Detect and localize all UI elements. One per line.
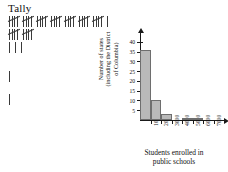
x-tick (151, 120, 152, 124)
tally-group-of-five (9, 16, 20, 27)
bar (182, 118, 193, 120)
tally-mark (15, 42, 18, 53)
y-tick: 40 (137, 42, 143, 43)
x-tick-label: 4000 (184, 115, 190, 126)
x-axis-title-line: public schools (120, 157, 228, 166)
x-tick (172, 120, 173, 124)
histogram-chart: Number of states (including the District… (96, 30, 228, 172)
y-axis-title-line: Number of states (97, 19, 104, 99)
x-tick-label: 3000 (174, 115, 180, 126)
y-tick-label: 30 (129, 59, 135, 65)
tally-group-of-five (9, 29, 20, 40)
x-axis-title: Students enrolled in public schools (120, 148, 228, 166)
bar (151, 100, 162, 120)
y-tick-label: 25 (129, 69, 135, 75)
x-tick (203, 120, 204, 124)
tally-group-of-five (65, 16, 76, 27)
tally-group-of-five (23, 16, 34, 27)
tally-group-of-five (23, 29, 34, 40)
x-tick-label: 6000 (205, 115, 211, 126)
bar (140, 50, 151, 120)
y-tick-label: 5 (132, 108, 135, 114)
tally-mark (9, 42, 12, 53)
y-axis-title-line: (including the District (104, 19, 111, 99)
tally-mark (9, 94, 12, 105)
page-root: Tally (0, 0, 228, 172)
tally-mark (21, 42, 24, 53)
bar (161, 114, 172, 120)
y-axis-title: Number of states (including the District… (97, 19, 119, 99)
tally-group-of-five (37, 16, 48, 27)
y-tick-label: 15 (129, 88, 135, 94)
y-tick-label: 10 (129, 98, 135, 104)
bar (193, 118, 204, 120)
y-tick-label: 20 (129, 78, 135, 84)
x-tick (193, 120, 194, 124)
x-tick (182, 120, 183, 124)
x-axis-arrow-icon (224, 118, 228, 124)
plot-area: 510152025303540 100020003000400050006000… (140, 38, 224, 120)
tally-title: Tally (8, 2, 116, 14)
x-axis-title-line: Students enrolled in (120, 148, 228, 157)
x-tick-label: 7000 (216, 115, 222, 126)
y-axis-arrow-icon (138, 28, 144, 33)
tally-group-of-five (51, 16, 62, 27)
y-tick-label: 35 (129, 49, 135, 55)
x-tick (214, 120, 215, 124)
tally-mark (9, 71, 12, 82)
y-tick-label: 40 (129, 39, 135, 45)
x-tick-label: 5000 (195, 115, 201, 126)
y-axis-title-line: of Columbia) (112, 19, 119, 99)
x-tick (161, 120, 162, 124)
tally-group-of-five (79, 16, 90, 27)
